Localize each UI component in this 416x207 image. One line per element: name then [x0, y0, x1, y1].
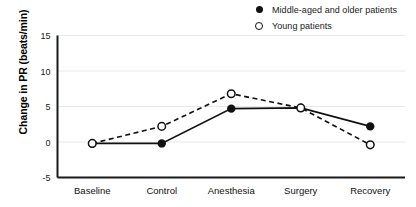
data-point-open [297, 104, 305, 112]
y-tick-label: 10 [40, 67, 50, 77]
x-category-labels: BaselineControlAnesthesiaSurgeryRecovery [74, 185, 391, 196]
series-line [92, 108, 370, 144]
y-tick-label: 15 [40, 31, 50, 41]
x-category-label: Anesthesia [208, 185, 256, 196]
x-category-label: Control [146, 185, 177, 196]
y-tick-label: 5 [45, 102, 50, 112]
x-category-label: Baseline [74, 185, 110, 196]
data-point-open [366, 141, 374, 149]
data-point-open [158, 123, 166, 131]
y-tick-labels: 151050-5 [40, 31, 50, 183]
plot-area: 151050-5 BaselineControlAnesthesiaSurger… [0, 0, 416, 207]
chart-figure: Middle-aged and older patients Young pat… [0, 0, 416, 207]
data-point-filled [158, 139, 166, 147]
data-point-filled [227, 104, 235, 112]
x-category-label: Recovery [350, 185, 390, 196]
data-point-open [227, 90, 235, 98]
y-tick-label: -5 [42, 173, 50, 183]
series-line [92, 94, 370, 145]
series-lines [92, 94, 370, 145]
data-point-filled [366, 122, 374, 130]
series-points [88, 90, 374, 149]
x-category-label: Surgery [284, 185, 318, 196]
y-tick-label: 0 [45, 138, 50, 148]
data-point-open [88, 140, 96, 148]
